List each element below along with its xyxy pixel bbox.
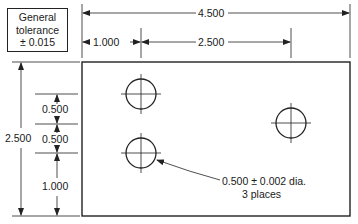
hole-right — [271, 103, 311, 143]
hole-bottom-left — [121, 133, 161, 173]
callout-line-1: 0.500 ± 0.002 dia. — [222, 175, 306, 187]
dim-v-spacing-mid: 0.500 — [42, 133, 68, 145]
dim-hole-spacing-x: 2.500 — [198, 36, 224, 48]
callout-line-2: 3 places — [242, 188, 281, 200]
dim-left-offset: 1.000 — [93, 36, 119, 48]
dim-v-spacing-bottom: 1.000 — [42, 180, 68, 192]
dim-overall-height: 2.500 — [5, 132, 31, 144]
callout-leader — [157, 160, 220, 180]
drawing-canvas: 4.500 1.000 2.500 2.500 0.500 0.500 1.00… — [0, 0, 358, 224]
part-outline — [82, 62, 350, 216]
hole-top-left — [121, 74, 161, 114]
dim-overall-width: 4.500 — [198, 7, 224, 19]
dim-v-spacing-top: 0.500 — [42, 103, 68, 115]
